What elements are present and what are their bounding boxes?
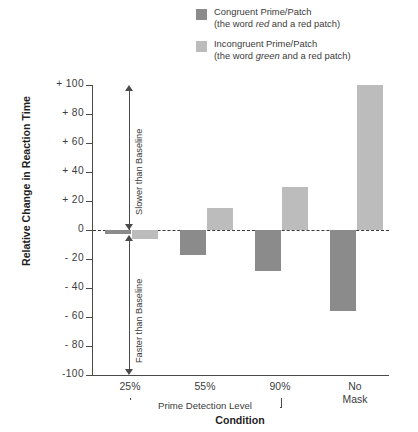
legend-swatch-congruent <box>196 9 207 20</box>
prime-detection-bracket-label: Prime Detection Level <box>130 400 280 411</box>
bar-incongruent-55- <box>207 208 233 230</box>
y-tick-label: - 20 <box>28 252 84 263</box>
x-tick-label: 25% <box>90 381 170 394</box>
legend-label-incongruent: Incongruent Prime/Patch (the word green … <box>214 38 351 61</box>
legend-title-incongruent: Incongruent Prime/Patch <box>214 38 317 49</box>
x-tick-label: 55% <box>165 381 245 394</box>
y-tick-label: + 20 <box>28 194 84 205</box>
y-tick-label: + 40 <box>28 165 84 176</box>
legend-label-congruent: Congruent Prime/Patch (the word red and … <box>214 6 340 29</box>
legend-sub-pre-congruent: (the word <box>214 18 256 29</box>
legend-sub-post-congruent: and a red patch) <box>269 18 340 29</box>
legend-title-congruent: Congruent Prime/Patch <box>214 6 311 17</box>
legend-sub-congruent: (the word red and a red patch) <box>214 18 340 30</box>
legend-sub-incongruent: (the word green and a red patch) <box>214 50 351 62</box>
x-axis-title: Condition <box>92 414 388 426</box>
direction-annotations: Slower than Baseline Faster than Baselin… <box>123 85 137 375</box>
bar-congruent-90- <box>255 230 281 271</box>
y-tick-label: - 80 <box>28 339 84 350</box>
y-tick-label: + 100 <box>28 78 84 89</box>
y-tick-label: - 60 <box>28 310 84 321</box>
bar-congruent-no-mask <box>330 230 356 311</box>
legend-swatch-incongruent <box>196 41 207 52</box>
y-axis-title: Relative Change in Reaction Time <box>20 56 32 306</box>
slower-than-baseline-label: Slower than Baseline <box>134 129 144 215</box>
y-tick-label: 0 <box>28 223 84 234</box>
legend-item-congruent: Congruent Prime/Patch (the word red and … <box>196 6 418 29</box>
arrow-down-icon-faster <box>125 369 133 375</box>
arrow-line-faster <box>129 240 130 369</box>
chart-legend: Congruent Prime/Patch (the word red and … <box>196 6 418 70</box>
legend-sub-post-incongruent: and a red patch) <box>280 50 351 61</box>
x-tick-label: NoMask <box>315 381 395 406</box>
arrow-line-slower <box>129 90 130 230</box>
y-tick-label: + 60 <box>28 136 84 147</box>
legend-item-incongruent: Incongruent Prime/Patch (the word green … <box>196 38 418 61</box>
y-tick-label: -100 <box>28 368 84 379</box>
y-tick-label: + 80 <box>28 107 84 118</box>
y-tick-label: - 40 <box>28 281 84 292</box>
legend-sub-em-incongruent: green <box>256 50 280 61</box>
legend-sub-pre-incongruent: (the word <box>214 50 256 61</box>
legend-sub-em-congruent: red <box>256 18 270 29</box>
arrow-down-icon-slower <box>125 224 133 230</box>
bar-incongruent-no-mask <box>357 85 383 230</box>
faster-than-baseline-label: Faster than Baseline <box>134 279 144 363</box>
x-tick-label: 90% <box>240 381 320 394</box>
bar-congruent-55- <box>180 230 206 255</box>
bar-incongruent-90- <box>282 187 308 231</box>
